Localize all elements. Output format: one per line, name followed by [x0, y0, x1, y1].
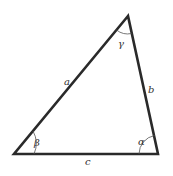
side-label-a: a	[64, 76, 70, 87]
angle-label-beta: β	[33, 137, 40, 148]
side-label-b: b	[148, 84, 154, 95]
side-label-c: c	[85, 156, 91, 167]
angle-arc-gamma	[117, 30, 132, 34]
triangle-diagram: a b c γ β α	[0, 0, 173, 176]
triangle-shape	[14, 16, 158, 154]
angle-label-alpha: α	[138, 136, 145, 147]
angle-label-gamma: γ	[118, 38, 124, 49]
